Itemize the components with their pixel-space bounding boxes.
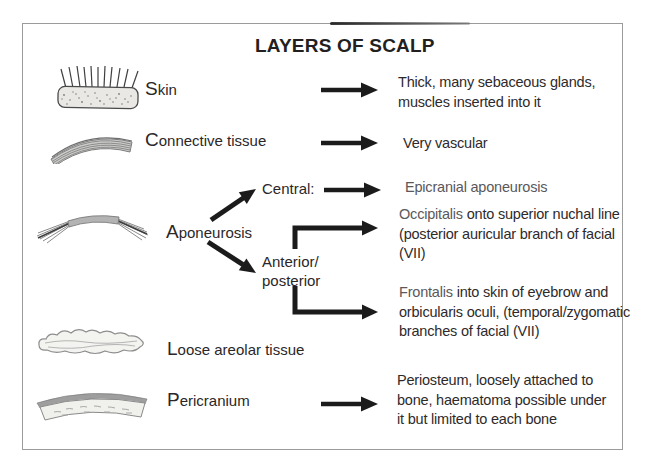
occipitalis-description: Occipitalis onto superior nuchal line (p… bbox=[399, 205, 639, 264]
skin-illustration-icon bbox=[52, 58, 147, 113]
connective-arrow-icon bbox=[320, 135, 380, 151]
scalp-layers-diagram: LAYERS OF SCALP bbox=[0, 0, 647, 470]
central-arrow-icon bbox=[323, 182, 383, 198]
pericranium-arrow-icon bbox=[320, 396, 380, 412]
skin-arrow-icon bbox=[320, 82, 380, 98]
aponeurosis-to-anterior-posterior-arrow-icon bbox=[202, 236, 262, 278]
central-branch-label: Central: bbox=[262, 179, 315, 198]
loose-areolar-label: Loose areolar tissue bbox=[167, 339, 304, 360]
skin-label: Skin bbox=[145, 79, 177, 100]
anterior-line: Anterior/ bbox=[262, 252, 320, 271]
central-description: Epicranial aponeurosis bbox=[405, 178, 547, 198]
occipitalis-elbow-arrow-icon bbox=[292, 219, 384, 251]
frontalis-term: Frontalis bbox=[399, 284, 453, 300]
loose-areolar-illustration-icon bbox=[33, 324, 153, 362]
page-title: LAYERS OF SCALP bbox=[255, 35, 435, 57]
aponeurosis-to-central-arrow-icon bbox=[205, 186, 261, 226]
pericranium-illustration-icon bbox=[34, 384, 152, 426]
pericranium-label: Pericranium bbox=[167, 390, 250, 411]
frontalis-elbow-arrow-icon bbox=[292, 284, 384, 322]
frontalis-description: Frontalis into skin of eyebrow and orbic… bbox=[399, 283, 639, 342]
occipitalis-term: Occipitalis bbox=[399, 206, 463, 222]
pericranium-description: Periosteum, loosely attached to bone, ha… bbox=[397, 371, 615, 430]
scan-artifact bbox=[330, 22, 470, 25]
connective-tissue-illustration-icon bbox=[48, 126, 138, 164]
connective-description: Very vascular bbox=[403, 134, 487, 154]
connective-label: Connective tissue bbox=[145, 130, 266, 151]
aponeurosis-illustration-icon bbox=[34, 208, 152, 246]
skin-description: Thick, many sebaceous glands, muscles in… bbox=[398, 73, 613, 112]
